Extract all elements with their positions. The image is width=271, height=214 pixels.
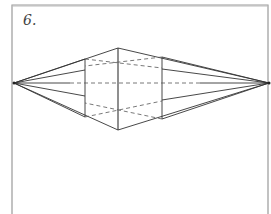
hidden-bottom-left (85, 101, 162, 117)
figure-frame (0, 0, 271, 214)
hidden-bottom-right (85, 103, 162, 119)
hidden-top-right (85, 57, 162, 66)
hidden-top-left (85, 59, 162, 68)
figure-number: 6. (23, 12, 36, 28)
right-vp-upper-line (162, 57, 269, 83)
right-vp-bottom-line (118, 83, 269, 130)
right-vp-ray-2 (162, 83, 269, 100)
left-vp-ray-1 (14, 70, 85, 83)
left-vp-ray-2 (14, 83, 85, 96)
perspective-diagram (0, 0, 271, 214)
left-vanishing-point (13, 82, 16, 85)
left-vp-lower-line (14, 83, 85, 117)
right-vp-ray-1 (162, 69, 269, 83)
right-vp-lower-line (162, 83, 269, 119)
frame-border (12, 5, 268, 214)
right-vanishing-point (268, 82, 271, 85)
left-vp-upper-line (14, 59, 85, 83)
